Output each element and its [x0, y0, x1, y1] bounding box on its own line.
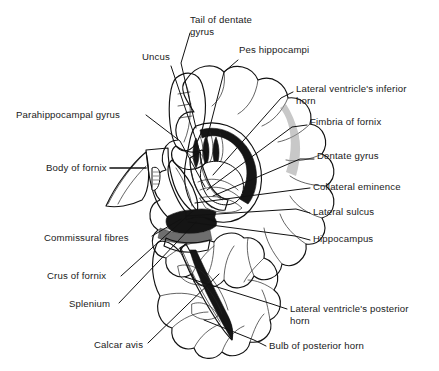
label-hippocampus: Hippocampus: [313, 233, 373, 244]
label-tail-of-dentate-gyrus: Tail of dentate gyrus: [190, 14, 255, 37]
commissural-fibres: [106, 152, 149, 207]
label-splenium: Splenium: [69, 298, 110, 309]
label-body-of-fornix: Body of fornix: [46, 162, 107, 173]
label-lateral-sulcus: Lateral sulcus: [313, 206, 374, 217]
label-dentate-gyrus: Dentate gyrus: [317, 150, 379, 161]
hippocampus-diagram-svg: Tail of dentate gyrus Uncus Pes hippocam…: [0, 0, 439, 371]
label-fimbria-of-fornix: Fimbria of fornix: [310, 116, 381, 127]
label-bulb-of-posterior-horn: Bulb of posterior horn: [269, 340, 364, 351]
anatomical-figure: Tail of dentate gyrus Uncus Pes hippocam…: [0, 0, 439, 371]
label-tail-of-dentate-gyrus-line1: Tail of dentate: [190, 14, 252, 25]
label-calcar-avis: Calcar avis: [94, 339, 143, 350]
label-collateral-eminence: Collateral eminence: [313, 181, 401, 192]
label-commissural-fibres: Commissural fibres: [44, 232, 129, 243]
label-lateral-ventricle-inferior-horn-line2: horn: [296, 95, 316, 106]
label-lateral-ventricle-inferior-horn-line1: Lateral ventricle's inferior: [296, 83, 407, 94]
label-lateral-ventricle-posterior-horn-line2: horn: [290, 315, 310, 326]
label-lateral-ventricle-posterior-horn-line1: Lateral ventricle's posterior: [290, 303, 409, 314]
label-tail-of-dentate-gyrus-line2: gyrus: [190, 26, 214, 37]
splenium: [180, 244, 233, 340]
label-lateral-ventricle-posterior-horn: Lateral ventricle's posterior horn: [290, 303, 412, 326]
label-uncus: Uncus: [142, 51, 170, 62]
leader-calcar-avis: [148, 274, 219, 343]
label-lateral-ventricle-inferior-horn: Lateral ventricle's inferior horn: [296, 83, 409, 106]
label-pes-hippocampi: Pes hippocampi: [239, 44, 309, 55]
hippocampus: [185, 123, 262, 222]
label-parahippocampal-gyrus: Parahippocampal gyrus: [16, 109, 120, 120]
label-crus-of-fornix: Crus of fornix: [47, 270, 106, 281]
